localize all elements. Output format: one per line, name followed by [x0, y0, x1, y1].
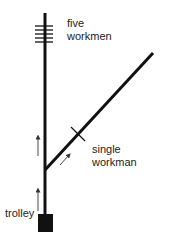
five-workmen-label-line1: five	[67, 17, 112, 30]
trolley-label-text: trolley	[5, 207, 34, 220]
five-workmen-label: five workmen	[67, 17, 112, 43]
single-workman-label-line1: single	[92, 143, 137, 156]
trolley-box	[38, 214, 53, 232]
trolley-problem-diagram: five workmen single workman trolley	[0, 0, 169, 240]
single-workman-label-line2: workman	[92, 156, 137, 169]
diagonal-arrow-icon	[60, 155, 69, 165]
trolley-label: trolley	[5, 207, 34, 220]
five-workmen-label-line2: workmen	[67, 30, 112, 43]
single-workman-label: single workman	[92, 143, 137, 169]
